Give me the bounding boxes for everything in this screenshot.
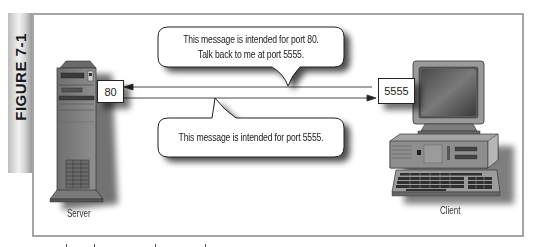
server-port-box: 80 [97, 80, 124, 103]
client-label: Client [440, 205, 460, 216]
request-message-line1: This message is intended for port 80. [168, 32, 334, 47]
connection-lines [124, 84, 376, 101]
server-port-number: 80 [104, 86, 116, 98]
client-port-box: 5555 [378, 78, 415, 104]
request-message-line2: Talk back to me at port 5555. [168, 47, 334, 62]
server-label: Server [67, 208, 91, 219]
request-message: This message is intended for port 80. Ta… [168, 32, 334, 62]
response-message-line1: This message is intended for port 5555. [168, 130, 334, 145]
client-port-number: 5555 [384, 85, 408, 97]
response-message: This message is intended for port 5555. [168, 130, 334, 145]
caption-fragment [60, 243, 220, 247]
arrow-right-icon [367, 95, 376, 101]
arrow-left-icon [124, 84, 133, 90]
